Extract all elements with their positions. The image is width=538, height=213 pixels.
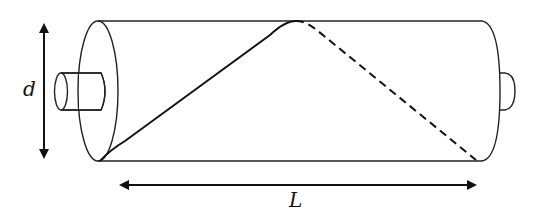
left-shaft-overlap-hide	[79, 74, 104, 109]
helix-back-dashed	[296, 21, 476, 160]
helix-front-solid	[100, 21, 296, 161]
diameter-label: d	[23, 77, 36, 101]
cylinder-body	[98, 21, 482, 161]
right-shaft-nub	[500, 73, 515, 110]
cylinder-diagram	[0, 0, 538, 213]
right-end-cap	[482, 21, 500, 161]
length-label: L	[289, 188, 302, 212]
